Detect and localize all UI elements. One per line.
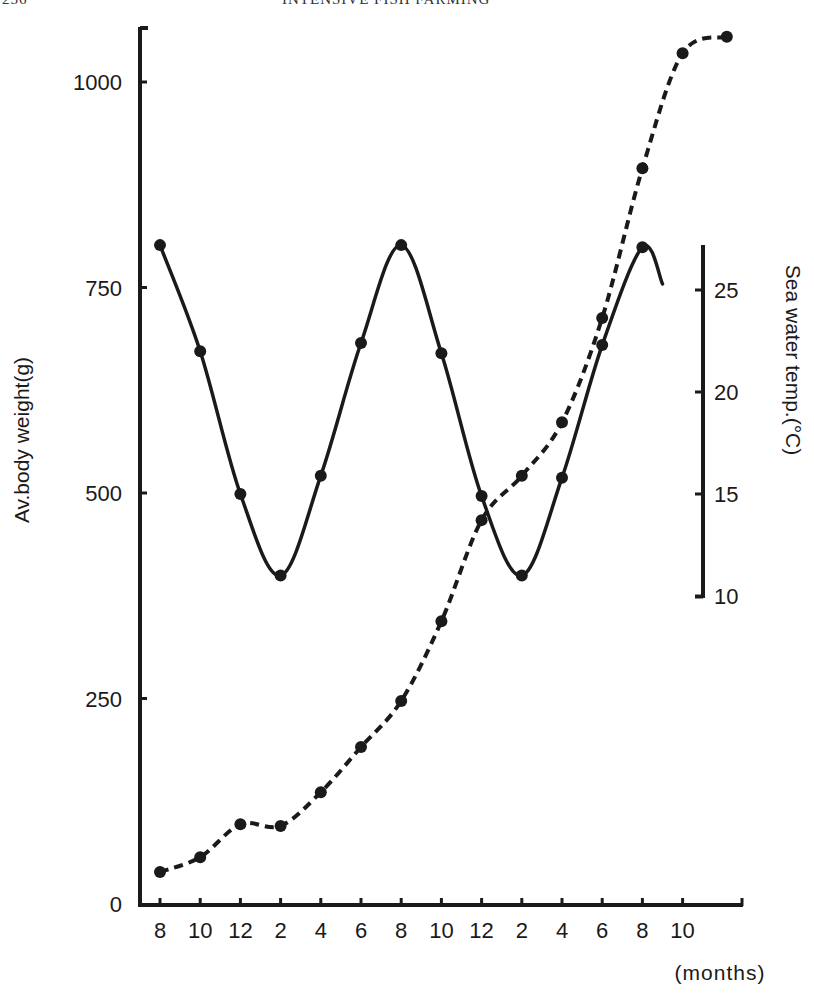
weight-point xyxy=(315,786,327,798)
weight-point xyxy=(355,741,367,753)
weight-line xyxy=(160,37,727,872)
temperature-point xyxy=(234,488,246,500)
x-axis-title: (months) xyxy=(675,961,766,984)
weight-point xyxy=(476,514,488,526)
temperature-point xyxy=(596,339,608,351)
x-tick-label: 2 xyxy=(274,918,286,943)
x-tick-label: 10 xyxy=(429,918,453,943)
weight-point xyxy=(395,695,407,707)
temperature-series xyxy=(154,239,663,581)
x-tick-label: 6 xyxy=(596,918,608,943)
x-tick-label: 12 xyxy=(469,918,493,943)
temperature-point xyxy=(154,239,166,251)
chart: 0250500750100081012246810122468101015202… xyxy=(0,0,814,997)
y-tick-label: 250 xyxy=(85,687,122,712)
weight-point xyxy=(721,31,733,43)
weight-point xyxy=(275,820,287,832)
weight-series xyxy=(154,31,733,878)
x-tick-label: 10 xyxy=(188,918,212,943)
weight-point xyxy=(234,818,246,830)
y-tick-label: 750 xyxy=(85,276,122,301)
temperature-point xyxy=(476,490,488,502)
temperature-point xyxy=(355,337,367,349)
x-tick-label: 8 xyxy=(636,918,648,943)
weight-point xyxy=(596,312,608,324)
weight-point xyxy=(194,851,206,863)
weight-point xyxy=(677,47,689,59)
y2-tick-label: 25 xyxy=(714,278,738,303)
weight-point xyxy=(435,615,447,627)
temperature-point xyxy=(516,570,528,582)
x-tick-label: 6 xyxy=(355,918,367,943)
y-tick-label: 500 xyxy=(85,481,122,506)
x-tick-label: 4 xyxy=(315,918,327,943)
y2-tick-label: 20 xyxy=(714,380,738,405)
y2-tick-label: 15 xyxy=(714,482,738,507)
x-tick-label: 8 xyxy=(154,918,166,943)
weight-point xyxy=(556,416,568,428)
temperature-point xyxy=(395,239,407,251)
temperature-point xyxy=(194,345,206,357)
y-tick-label: 0 xyxy=(110,892,122,917)
y2-tick-label: 10 xyxy=(714,584,738,609)
x-tick-label: 8 xyxy=(395,918,407,943)
weight-point xyxy=(154,866,166,878)
y-tick-label: 1000 xyxy=(73,70,122,95)
temperature-point xyxy=(556,472,568,484)
temperature-point xyxy=(275,570,287,582)
temperature-point xyxy=(315,470,327,482)
x-tick-label: 10 xyxy=(670,918,694,943)
y-axis-title: Av.body weight(g) xyxy=(10,357,33,523)
x-tick-label: 4 xyxy=(556,918,568,943)
y2-axis-title: Sea water temp.(°C) xyxy=(782,265,805,455)
weight-point xyxy=(516,470,528,482)
x-tick-label: 12 xyxy=(228,918,252,943)
temperature-point xyxy=(636,241,648,253)
temperature-line xyxy=(160,245,663,576)
temperature-point xyxy=(435,347,447,359)
x-tick-label: 2 xyxy=(516,918,528,943)
weight-point xyxy=(636,162,648,174)
